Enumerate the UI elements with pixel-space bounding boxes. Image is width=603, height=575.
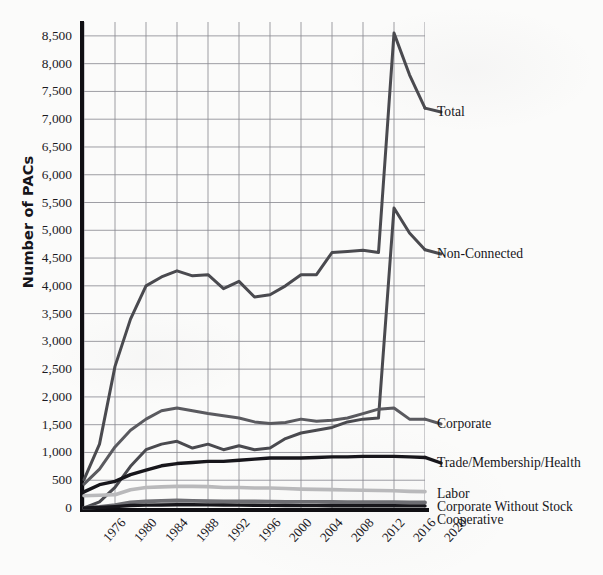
x-tick-label: 1996 [255, 515, 285, 545]
x-tick-label: 1992 [224, 515, 254, 545]
pac-count-line-chart: Number of PACs 05001,0001,5002,0002,5003… [0, 0, 603, 575]
x-tick-label: 1980 [131, 515, 161, 545]
series-label-trade-membership-health: Trade/Membership/Health [437, 455, 581, 470]
series-label-cooperative: Cooperative [437, 512, 503, 527]
x-tick-label: 2008 [348, 515, 378, 545]
x-tick-label: 2000 [286, 515, 316, 545]
x-tick-label: 2016 [410, 515, 440, 545]
series-label-corporate: Corporate [437, 416, 491, 431]
x-tick-label: 2004 [317, 515, 347, 545]
x-tick-label: 1988 [193, 515, 223, 545]
x-axis-tick-labels: 1976198019841988199219962000200420082012… [0, 0, 603, 575]
series-label-non-connected: Non-Connected [437, 246, 523, 261]
x-tick-label: 2012 [379, 515, 409, 545]
x-tick-label: 1976 [100, 515, 130, 545]
x-tick-label: 1984 [162, 515, 192, 545]
series-label-total: Total [437, 104, 465, 119]
